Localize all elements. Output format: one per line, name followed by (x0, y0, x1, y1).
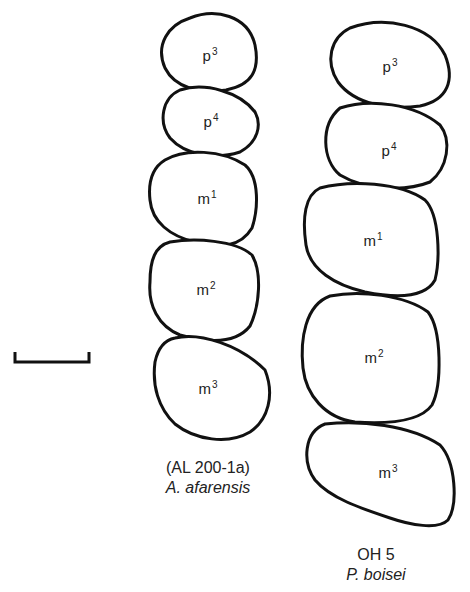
left-species-name: A. afarensis (166, 478, 250, 498)
right-specimen-id: OH 5 (346, 545, 405, 565)
left-tooth-p3-label: p3 (203, 46, 218, 64)
right-species-name: P. boisei (346, 565, 405, 585)
tooth-outline-diagram (0, 0, 470, 592)
right-tooth-m2-label: m2 (364, 348, 383, 366)
left-specimen-id: (AL 200-1a) (166, 458, 250, 478)
left-row-caption: (AL 200-1a) A. afarensis (166, 458, 250, 498)
left-tooth-m2-label: m2 (196, 280, 215, 298)
scale-bar (15, 352, 89, 362)
right-tooth-m1-label: m1 (363, 231, 382, 249)
right-tooth-p3-label: p3 (383, 57, 398, 75)
left-tooth-m3-label: m3 (198, 379, 217, 397)
left-tooth-m1-label: m1 (197, 189, 216, 207)
left-tooth-p4-label: p4 (204, 112, 219, 130)
right-tooth-m3-label: m3 (378, 463, 397, 481)
right-row-caption: OH 5 P. boisei (346, 545, 405, 585)
right-tooth-p4-label: p4 (382, 141, 397, 159)
